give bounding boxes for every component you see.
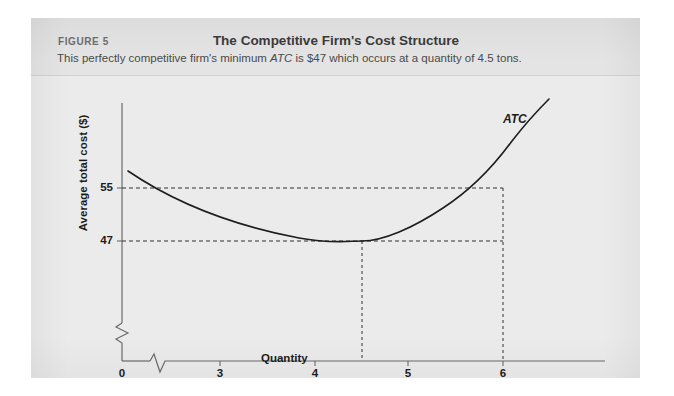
figure-subtitle-part-2: is $47 which occurs at a quantity of 4.5… xyxy=(292,52,522,64)
x-tick-label-3: 3 xyxy=(211,367,229,379)
x-axis-label: Quantity xyxy=(261,352,308,364)
y-tick-label-47: 47 xyxy=(85,234,113,246)
figure-header-band: FIGURE 5 The Competitive Firm's Cost Str… xyxy=(31,18,640,76)
x-axis xyxy=(122,354,605,372)
guide-line-atc-55 xyxy=(122,188,503,361)
guide-line-atc-47 xyxy=(122,241,503,361)
figure-panel: FIGURE 5 The Competitive Firm's Cost Str… xyxy=(31,18,640,378)
y-tick-marks xyxy=(117,188,122,241)
figure-subtitle-part-1: This perfectly competitive firm's minimu… xyxy=(57,52,270,64)
figure-subtitle-atc-italic: ATC xyxy=(270,52,292,64)
x-tick-label-4: 4 xyxy=(306,367,324,379)
figure-number-label: FIGURE 5 xyxy=(58,36,109,47)
figure-subtitle: This perfectly competitive firm's minimu… xyxy=(57,52,522,64)
y-axis xyxy=(116,103,128,361)
chart-svg xyxy=(31,75,640,378)
y-axis-break-mark xyxy=(116,323,128,361)
atc-curve-label: ATC xyxy=(503,112,527,126)
atc-curve xyxy=(128,99,549,242)
y-tick-label-55: 55 xyxy=(85,181,113,193)
figure-root: FIGURE 5 The Competitive Firm's Cost Str… xyxy=(0,0,674,396)
chart-plot-area: Average total cost ($) Quantity 55 47 0 … xyxy=(31,75,640,378)
x-tick-label-0: 0 xyxy=(113,367,131,379)
y-axis-label: Average total cost ($) xyxy=(77,93,89,253)
figure-title: The Competitive Firm's Cost Structure xyxy=(171,33,501,48)
x-tick-label-6: 6 xyxy=(494,367,512,379)
x-tick-label-5: 5 xyxy=(399,367,417,379)
